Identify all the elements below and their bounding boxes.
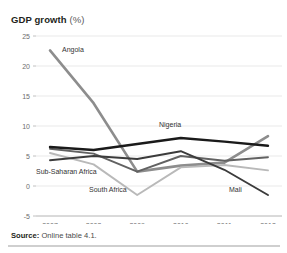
- bottom-divider: [8, 245, 280, 247]
- series-label-angola: Angola: [62, 46, 84, 53]
- x-tick-label: 2007: [42, 222, 58, 224]
- series-line-nigeria: [50, 138, 268, 150]
- y-axis-tick-labels: 2520151050-5: [22, 33, 30, 220]
- y-tick-label: 15: [22, 93, 30, 100]
- x-tick-label: 2008: [86, 222, 102, 224]
- chart-title-unit: (%): [69, 14, 84, 25]
- y-tick-label: 0: [26, 183, 30, 190]
- series-label-sub-saharan-africa: Sub-Saharan Africa: [36, 168, 97, 175]
- chart-title: GDP growth (%): [11, 14, 85, 25]
- series-label-south-africa: South Africa: [89, 186, 127, 193]
- y-tick-label: 25: [22, 33, 30, 40]
- series-label-mali: Mali: [229, 186, 242, 193]
- source-note: Source: Online table 4.1.: [11, 231, 97, 240]
- series-line-angola: [50, 50, 268, 171]
- plot-area: 2520151050-5 200720082009201020112012: [0, 28, 287, 224]
- chart-title-main: GDP growth: [11, 14, 67, 25]
- x-tick-label: 2012: [260, 222, 276, 224]
- x-tick-label: 2011: [217, 222, 232, 224]
- series-label-nigeria: Nigeria: [159, 121, 181, 128]
- y-tick-label: -5: [24, 213, 30, 220]
- y-tick-label: 10: [22, 123, 30, 130]
- y-tick-label: 20: [22, 63, 30, 70]
- y-tick-label: 5: [26, 153, 30, 160]
- line-chart-svg: 2520151050-5 200720082009201020112012: [0, 28, 287, 224]
- chart-figure: GDP growth (%) 2520151050-5 200720082009…: [0, 0, 287, 253]
- x-tick-label: 2010: [173, 222, 189, 224]
- x-tick-label: 2009: [129, 222, 145, 224]
- source-value: Online table 4.1.: [41, 231, 96, 240]
- source-label: Source:: [11, 231, 39, 240]
- x-axis-tick-labels: 200720082009201020112012: [42, 222, 276, 224]
